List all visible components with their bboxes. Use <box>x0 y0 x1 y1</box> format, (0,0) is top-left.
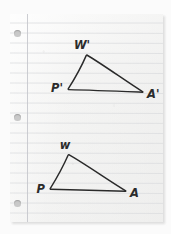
notebook-paper <box>10 14 163 222</box>
ruled-lines <box>10 14 163 222</box>
hole-punch-middle <box>14 114 21 121</box>
hole-punch-top <box>14 30 21 37</box>
hole-punch-bottom <box>14 200 21 207</box>
margin-rule-line <box>27 14 28 222</box>
notebook-scan: W' P' A' w P A <box>0 0 171 234</box>
